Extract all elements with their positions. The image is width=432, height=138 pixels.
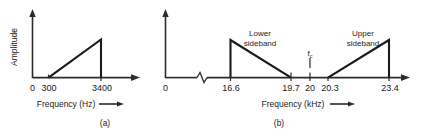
panel-a-x-axis-label: Frequency (Hz) — [37, 99, 96, 109]
panel-a-y-axis — [29, 9, 35, 78]
panel-a-x-axis-label-arrow — [99, 101, 124, 106]
carrier-frequency-marker: fc — [308, 49, 313, 68]
axis-break-zigzag — [197, 73, 207, 83]
panel-b-x-axis — [166, 73, 411, 83]
panel-b-tick-label-19-7: 19.7 — [282, 83, 300, 93]
lower-sideband-label-line1: Lower — [249, 29, 271, 38]
upper-sideband-label-line1: Upper — [352, 29, 374, 38]
panel-a-tick-label-300: 300 — [41, 83, 56, 93]
panel-a-origin-label: 0 — [30, 83, 35, 93]
panel-b-tick-label-16-6: 16.6 — [222, 83, 240, 93]
panel-b-x-axis-label-arrow — [330, 101, 355, 106]
panel-b-y-axis — [162, 9, 168, 78]
y-axis-arrowhead — [29, 9, 35, 17]
panel-a-tick-label-3400: 3400 — [92, 83, 112, 93]
panel-b-tick-label-23-4: 23.4 — [381, 83, 399, 93]
panel-a: 0 300 3400 Amplitude Frequency (Hz) (a) — [0, 0, 160, 138]
upper-sideband-label-line2: sideband — [347, 39, 379, 48]
carrier-label: fc — [308, 49, 313, 59]
panel-b-caption: (b) — [274, 118, 285, 128]
panel-b-tick-label-20: 20 — [305, 83, 315, 93]
carrier-label-subscript: c — [310, 53, 313, 59]
x-axis-arrowhead — [131, 74, 140, 81]
panel-b-tick-label-20-3: 20.3 — [321, 83, 339, 93]
lower-sideband-label-line2: sideband — [244, 39, 276, 48]
panel-a-y-axis-label: Amplitude — [9, 28, 19, 66]
panel-b-x-axis-label: Frequency (kHz) — [262, 99, 325, 109]
x-axis-arrowhead — [401, 74, 410, 81]
panel-b: fc 0 16.6 19.7 20 20.3 23.4 Lower sideba… — [160, 0, 432, 138]
y-axis-arrowhead — [162, 9, 168, 17]
panel-a-caption: (a) — [100, 118, 111, 128]
panel-b-origin-label: 0 — [163, 83, 168, 93]
figure-root: 0 300 3400 Amplitude Frequency (Hz) (a) — [0, 0, 432, 138]
panel-a-spectrum-trace — [49, 40, 102, 78]
